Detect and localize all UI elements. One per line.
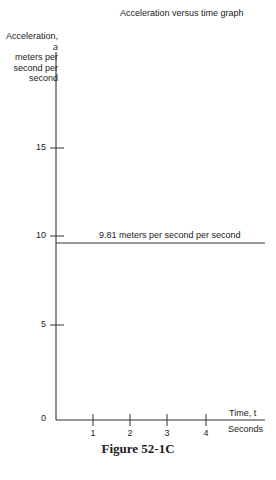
y-tick-label-5: 5 bbox=[6, 319, 46, 329]
x-axis-label-text: Time, t bbox=[229, 408, 256, 418]
y-axis-label: Acceleration, a meters per second per se… bbox=[0, 31, 58, 84]
x-axis-label-time: Time, t bbox=[229, 408, 256, 419]
x-tick-label-3: 3 bbox=[157, 428, 177, 438]
chart-title: Acceleration versus time graph bbox=[120, 8, 244, 18]
y-axis-label-line: Acceleration, bbox=[0, 31, 58, 42]
x-tick-label-4: 4 bbox=[196, 428, 216, 438]
y-axis-label-line: meters per bbox=[0, 52, 58, 63]
y-tick-label-0: 0 bbox=[6, 413, 46, 423]
y-tick-label-15: 15 bbox=[6, 142, 46, 152]
figure-caption: Figure 52-1C bbox=[0, 441, 276, 457]
y-axis-label-line: a bbox=[0, 42, 58, 53]
y-axis-label-line: second per bbox=[0, 63, 58, 74]
series-annotation: 9.81 meters per second per second bbox=[99, 230, 241, 240]
y-axis-label-line: second bbox=[0, 73, 58, 84]
x-axis-label-units: Seconds bbox=[228, 424, 263, 435]
x-tick-label-2: 2 bbox=[120, 428, 140, 438]
x-tick-label-1: 1 bbox=[83, 428, 103, 438]
y-tick-label-10: 10 bbox=[6, 230, 46, 240]
